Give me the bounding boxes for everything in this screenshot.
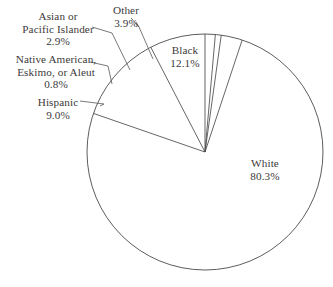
slice-label-asian-line2: Pacific Islander (22, 23, 94, 35)
leader-line-asian (112, 33, 130, 70)
pie-chart-figure: Asian or Pacific Islander 2.9% Other 3.9… (0, 0, 333, 287)
slice-label-other-line1: Other (113, 4, 139, 16)
slice-value-hispanic: 9.0% (10, 109, 106, 122)
slice-label-black-line1: Black (172, 44, 199, 56)
slice-label-native-line2: Eskimo, or Aleut (17, 66, 95, 78)
slice-label-white-line1: White (251, 157, 279, 169)
slice-value-native: 0.8% (0, 78, 112, 91)
slice-value-white: 80.3% (232, 170, 298, 183)
slice-label-hispanic: Hispanic 9.0% (10, 96, 106, 121)
slice-label-asian-or-pacific-islander: Asian or Pacific Islander 2.9% (2, 10, 114, 48)
slice-label-white: White 80.3% (232, 157, 298, 182)
slice-value-black: 12.1% (152, 57, 218, 70)
slice-label-other: Other 3.9% (100, 4, 152, 29)
slice-label-hispanic-line1: Hispanic (38, 96, 79, 108)
slice-label-asian-line1: Asian or (38, 10, 77, 22)
slice-value-asian: 2.9% (2, 35, 114, 48)
slice-value-other: 3.9% (100, 17, 152, 30)
slice-label-native-american: Native American, Eskimo, or Aleut 0.8% (0, 53, 112, 91)
slice-label-native-line1: Native American, (16, 53, 97, 65)
slice-label-black: Black 12.1% (152, 44, 218, 69)
